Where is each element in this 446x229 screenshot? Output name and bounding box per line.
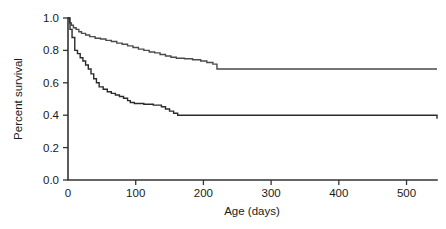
x-tick-label: 0: [65, 187, 71, 199]
survival-curves-group: [68, 18, 437, 119]
survival-chart-figure: 0.00.20.40.60.81.0 0100200300400500 Age …: [0, 0, 446, 229]
survival-plot-svg: 0.00.20.40.60.81.0 0100200300400500 Age …: [0, 0, 446, 229]
y-tick-label: 0.6: [43, 77, 59, 89]
y-tick-label: 1.0: [43, 12, 59, 24]
y-tick-label: 0.2: [43, 142, 59, 154]
x-tick-label: 100: [126, 187, 145, 199]
x-tick-label: 500: [397, 187, 416, 199]
y-axis-title: Percent survival: [12, 58, 24, 140]
upper-survival-curve: [68, 18, 437, 69]
x-axis-title: Age (days): [224, 205, 280, 217]
x-tick-label: 400: [329, 187, 348, 199]
x-tick-label: 200: [194, 187, 213, 199]
axes-group: [68, 18, 437, 180]
y-tick-label: 0.0: [43, 174, 59, 186]
y-tick-label: 0.4: [43, 109, 60, 121]
x-tick-label: 300: [262, 187, 281, 199]
y-axis-tick-labels: 0.00.20.40.60.81.0: [43, 12, 60, 186]
axis-lines: [68, 18, 437, 180]
x-axis-tick-labels: 0100200300400500: [65, 187, 416, 199]
y-tick-label: 0.8: [43, 44, 59, 56]
